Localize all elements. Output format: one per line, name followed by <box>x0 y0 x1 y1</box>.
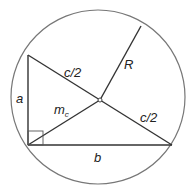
center-point <box>98 98 102 102</box>
label-R: R <box>124 57 133 72</box>
radius-R <box>100 26 141 100</box>
label-c-half-top: c/2 <box>64 65 82 80</box>
diagram-canvas: a b c/2 c/2 R mc <box>0 0 195 193</box>
label-c-half-bottom: c/2 <box>140 110 158 125</box>
label-m: mc <box>54 102 69 119</box>
label-a: a <box>16 91 23 106</box>
label-b: b <box>94 150 101 165</box>
